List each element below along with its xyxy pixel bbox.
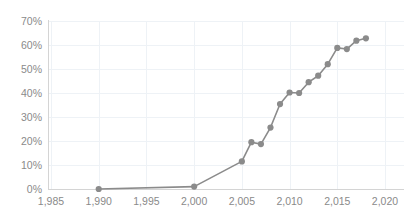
y-axis-tick-label: 20% — [21, 135, 42, 147]
chart-container: 0%10%20%30%40%50%60%70% 1,9851,9901,9952… — [0, 0, 410, 220]
data-point-marker[interactable] — [353, 38, 359, 44]
data-point-marker[interactable] — [258, 141, 264, 147]
y-axis-tick-label: 10% — [21, 159, 42, 171]
x-axis-tick-label: 1,990 — [86, 195, 112, 207]
x-axis-tick-label: 2,010 — [276, 195, 302, 207]
line-chart: 0%10%20%30%40%50%60%70% 1,9851,9901,9952… — [0, 0, 410, 220]
data-point-marker[interactable] — [286, 89, 292, 95]
data-point-marker[interactable] — [325, 61, 331, 67]
data-point-marker[interactable] — [96, 186, 102, 192]
x-axis-tick-label: 2,005 — [229, 195, 255, 207]
data-series — [96, 35, 369, 192]
data-point-marker[interactable] — [344, 46, 350, 52]
data-point-marker[interactable] — [277, 101, 283, 107]
x-axis-tick-label: 2,015 — [324, 195, 350, 207]
y-axis-tick-label: 0% — [27, 183, 42, 195]
y-axis-tick-label: 60% — [21, 39, 42, 51]
y-axis-tick-label: 30% — [21, 111, 42, 123]
data-point-marker[interactable] — [306, 79, 312, 85]
series-line — [99, 38, 366, 189]
data-point-marker[interactable] — [267, 124, 273, 130]
data-point-marker[interactable] — [239, 158, 245, 164]
x-axis-tick-label: 1,985 — [38, 195, 64, 207]
y-axis-tick-label: 50% — [21, 63, 42, 75]
x-axis-tick-labels: 1,9851,9901,9952,0002,0052,0102,0152,020 — [38, 195, 398, 207]
x-axis-tick-label: 2,020 — [372, 195, 398, 207]
y-axis-tick-labels: 0%10%20%30%40%50%60%70% — [21, 15, 42, 195]
data-point-marker[interactable] — [334, 45, 340, 51]
data-point-marker[interactable] — [363, 35, 369, 41]
data-point-marker[interactable] — [248, 139, 254, 145]
data-point-marker[interactable] — [191, 184, 197, 190]
y-axis-tick-label: 40% — [21, 87, 42, 99]
data-point-marker[interactable] — [315, 73, 321, 79]
y-axis-tick-label: 70% — [21, 15, 42, 27]
data-point-marker[interactable] — [296, 90, 302, 96]
x-axis-tick-label: 1,995 — [133, 195, 159, 207]
x-axis-tick-label: 2,000 — [181, 195, 207, 207]
